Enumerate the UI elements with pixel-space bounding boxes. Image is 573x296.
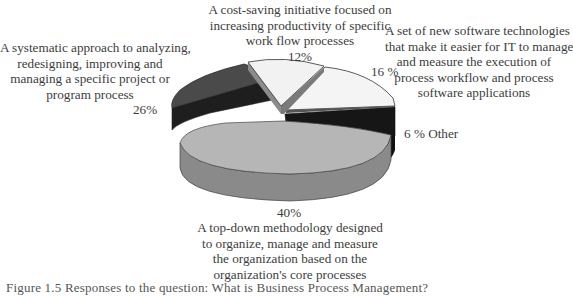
label-line: A set of new software technologies (385, 23, 563, 39)
label-slice-26: A systematic approach to analyzing, rede… (0, 40, 180, 102)
label-slice-40: A top-down methodology designed to organ… (180, 220, 400, 282)
label-line: A top-down methodology designed (180, 220, 400, 236)
label-line: managing a specific project or (0, 71, 180, 87)
label-line: increasing productivity of specific (200, 18, 400, 34)
percent-12: 12% (200, 49, 400, 65)
label-slice-6-other: 6 % Other (404, 126, 458, 142)
label-line: A systematic approach to analyzing, (0, 40, 180, 56)
label-line: software applications (385, 85, 563, 101)
label-line: to organize, manage and measure (180, 236, 400, 252)
label-line: A cost-saving initiative focused on (200, 2, 400, 18)
percent-26: 26% (133, 102, 157, 118)
percent-16: 16 % (371, 64, 398, 80)
label-line: that make it easier for IT to manage (385, 39, 563, 55)
label-line: and measure the execution of (385, 54, 563, 70)
label-line: the organization based on the (180, 251, 400, 267)
label-line: process workflow and process (385, 70, 563, 86)
percent-40: 40% (277, 205, 301, 221)
label-slice-12: A cost-saving initiative focused on incr… (200, 2, 400, 64)
label-line: program process (0, 87, 180, 103)
label-line: redesigning, improving and (0, 56, 180, 72)
figure-caption: Figure 1.5 Responses to the question: Wh… (0, 280, 570, 296)
label-slice-16: A set of new software technologies that … (385, 23, 563, 101)
label-line: work flow processes (200, 33, 400, 49)
